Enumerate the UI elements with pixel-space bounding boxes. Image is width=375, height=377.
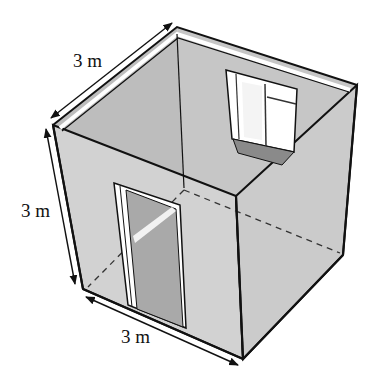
height-label: 3 m [21,200,50,221]
depth-label: 3 m [73,50,102,71]
room-diagram: 3 m 3 m 3 m [0,0,375,377]
width-label: 3 m [121,326,150,347]
